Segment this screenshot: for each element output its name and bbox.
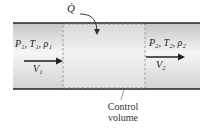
outlet-state-label: P₂, T₂, ρ₂ [149, 37, 186, 48]
inlet-velocity-label: V₁ [33, 63, 43, 74]
control-volume-box [63, 24, 145, 88]
inlet-state-label: P₁, T₁, ρ₁ [15, 38, 52, 49]
caption-leader-line [121, 89, 124, 100]
outlet-velocity-label: V₂ [156, 59, 166, 70]
control-volume-caption: Control volume [98, 101, 148, 123]
caption-line-2: volume [98, 112, 148, 123]
heat-transfer-label: Q̇ [67, 2, 75, 14]
caption-line-1: Control [98, 101, 148, 112]
